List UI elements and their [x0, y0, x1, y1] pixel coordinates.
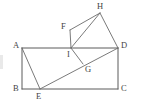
segment-fh	[70, 13, 100, 30]
vertex-label-h: H	[97, 2, 103, 11]
segment-hd	[100, 13, 118, 48]
vertex-label-c: C	[121, 84, 127, 93]
segment-fi	[70, 30, 71, 48]
vertex-label-i: I	[67, 50, 70, 59]
geometry-figure: A B C D E F G H I	[0, 0, 141, 111]
vertex-label-f: F	[61, 22, 66, 31]
segment-hi-diagonal	[71, 13, 100, 48]
vertex-label-e: E	[36, 92, 41, 101]
triangle-aed	[22, 48, 118, 89]
vertex-label-a: A	[13, 41, 19, 50]
vertex-label-b: B	[13, 84, 19, 93]
square-fhdi	[70, 13, 118, 48]
segment-ae	[22, 48, 40, 89]
vertex-label-g: G	[85, 65, 91, 74]
segment-ig	[71, 48, 83, 64]
geometry-canvas	[0, 0, 141, 111]
vertex-label-d: D	[121, 41, 127, 50]
rectangle-abcd	[22, 48, 118, 89]
segment-ed	[40, 48, 118, 89]
